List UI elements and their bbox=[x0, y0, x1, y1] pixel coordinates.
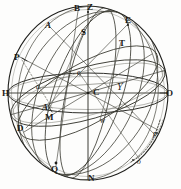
label-a: a bbox=[36, 83, 40, 91]
label-M: M bbox=[45, 113, 54, 122]
label-H: H bbox=[2, 89, 9, 98]
label-Q: Q bbox=[51, 165, 58, 174]
label-p: p bbox=[153, 130, 157, 138]
label-A-upper: A bbox=[45, 21, 51, 30]
chord-e-to-o bbox=[80, 74, 140, 160]
point-o bbox=[132, 159, 134, 161]
sphere-drawing bbox=[0, 0, 181, 189]
label-Z: Z bbox=[87, 3, 93, 12]
label-o: o bbox=[137, 158, 141, 166]
label-e: e bbox=[77, 69, 80, 77]
label-S: S bbox=[81, 28, 86, 37]
celestial-sphere-figure: BZEASTPeaHCΥOAMwDpoQN bbox=[0, 0, 181, 189]
label-C: C bbox=[93, 88, 100, 97]
label-P: P bbox=[14, 53, 20, 62]
label-E: E bbox=[125, 16, 131, 25]
label-w: w bbox=[100, 117, 105, 125]
chord-B-to-Q bbox=[56, 11, 78, 166]
label-D: D bbox=[17, 124, 24, 133]
label-B: B bbox=[74, 4, 80, 13]
label-T: T bbox=[119, 39, 125, 48]
point-C bbox=[87, 92, 90, 95]
label-A-lower: A bbox=[42, 103, 48, 112]
label-aries: Υ bbox=[117, 82, 123, 92]
label-N: N bbox=[88, 174, 95, 183]
label-O: O bbox=[166, 89, 173, 98]
dotted-arc-po bbox=[131, 120, 160, 162]
